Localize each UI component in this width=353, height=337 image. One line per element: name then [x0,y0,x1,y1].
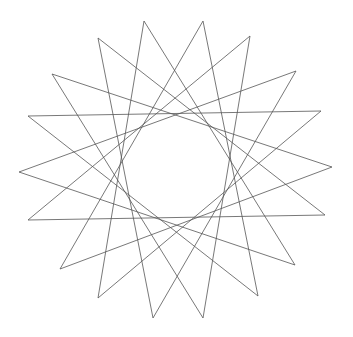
star-line-segment [19,71,296,172]
star-line-segment [52,74,203,318]
star-line-segment [153,71,296,318]
star-line-segment [98,38,153,318]
star-line-segment [52,74,332,167]
star-line-segment [28,215,325,220]
star-line-segment [203,21,258,296]
star-pattern-drawing [0,0,353,337]
star-line-segment [60,167,332,269]
star-lines [19,21,332,318]
star-line-segment [144,21,295,265]
star-line-segment [19,172,295,265]
star-line-segment [203,36,250,318]
star-line-segment [98,111,321,298]
star-line-segment [60,21,203,269]
